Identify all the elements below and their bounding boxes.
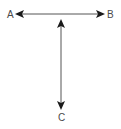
- label-b: B: [107, 9, 114, 20]
- label-c: C: [58, 112, 65, 123]
- diagram-canvas: A B C: [0, 0, 121, 129]
- arrow-a-b: [15, 10, 105, 18]
- arrow-c: [57, 19, 65, 110]
- label-a: A: [7, 9, 14, 20]
